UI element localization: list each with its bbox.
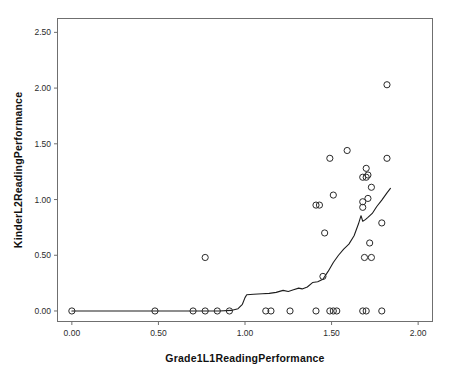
x-tick-label: 1.50 bbox=[323, 328, 340, 338]
x-tick-label: 0.50 bbox=[150, 328, 167, 338]
x-tick-label: 1.00 bbox=[237, 328, 254, 338]
y-tick-label: 1.00 bbox=[34, 195, 51, 205]
plot-canvas: 0.000.501.001.502.002.50 0.000.501.001.5… bbox=[0, 0, 456, 378]
y-axis-title: KinderL2ReadingPerformance bbox=[12, 92, 24, 248]
y-tick-label: 0.50 bbox=[34, 250, 51, 260]
y-tick-label: 0.00 bbox=[34, 306, 51, 316]
x-axis-title: Grade1L1ReadingPerformance bbox=[165, 352, 324, 364]
scatter-chart: 0.000.501.001.502.002.50 0.000.501.001.5… bbox=[0, 0, 456, 378]
x-tick-label: 0.00 bbox=[64, 328, 81, 338]
y-tick-label: 1.50 bbox=[34, 139, 51, 149]
y-tick-label: 2.00 bbox=[34, 83, 51, 93]
x-tick-label: 2.00 bbox=[410, 328, 427, 338]
y-tick-label: 2.50 bbox=[34, 27, 51, 37]
